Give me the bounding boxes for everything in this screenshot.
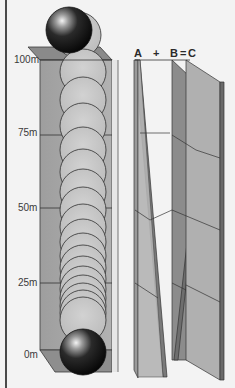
wedge-c <box>186 60 220 380</box>
equation-label: A + B = C <box>134 47 196 59</box>
height-label-100m: 100m <box>14 54 39 65</box>
ball-trajectory <box>55 12 106 343</box>
equation-b: B <box>170 47 178 59</box>
height-label-0m: 0m <box>24 349 38 360</box>
height-scale: 100m 75m 50m 25m 0m <box>14 54 39 360</box>
equation-plus: + <box>153 47 159 59</box>
figure-frame: 100m 75m 50m 25m 0m <box>0 0 235 388</box>
diagram-canvas: 100m 75m 50m 25m 0m <box>0 0 235 388</box>
equation-a: A <box>134 47 142 59</box>
wedge-diagram <box>134 60 224 380</box>
height-label-50m: 50m <box>18 202 37 213</box>
ball-end <box>60 329 106 375</box>
equation-equals: = <box>180 47 186 59</box>
ball-start <box>46 7 92 53</box>
equation-c: C <box>188 47 196 59</box>
height-label-25m: 25m <box>18 277 37 288</box>
height-label-75m: 75m <box>18 127 37 138</box>
column-edge-highlight <box>112 60 118 372</box>
